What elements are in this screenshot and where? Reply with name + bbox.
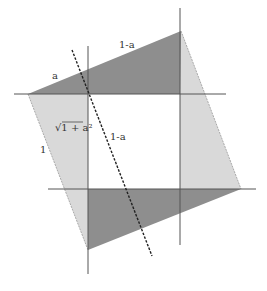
label-hypotenuse: √1 + a²	[55, 122, 92, 133]
dark-region-bottom	[88, 189, 241, 250]
label-inner-1-a: 1-a	[110, 131, 126, 142]
label-a: a	[52, 70, 58, 81]
label-side-1: 1	[40, 144, 46, 155]
dark-region-top	[28, 31, 181, 94]
geometry-diagram: a 1-a √1 + a² 1-a 1	[0, 0, 267, 291]
inner-square	[88, 94, 180, 189]
label-top-1-a: 1-a	[119, 39, 135, 50]
